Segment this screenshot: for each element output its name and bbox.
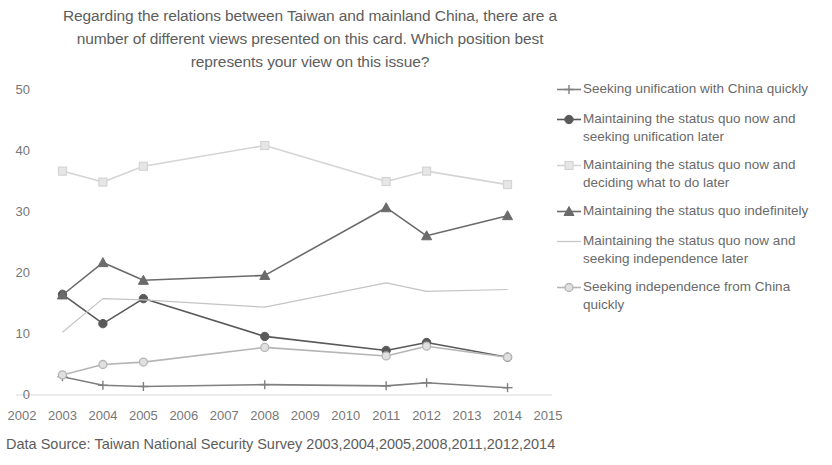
line-marker [556, 232, 582, 251]
data-point-marker [139, 358, 147, 366]
y-tick-label: 40 [0, 143, 30, 158]
y-tick-label: 10 [0, 326, 30, 341]
data-point-marker [139, 294, 147, 302]
data-point-marker [98, 258, 108, 267]
data-point-marker [382, 352, 390, 360]
series-line [58, 342, 511, 379]
data-point-marker [261, 343, 269, 351]
data-point-marker [58, 167, 66, 175]
x-tick-label: 2011 [366, 408, 406, 423]
x-tick-label: 2012 [407, 408, 447, 423]
series-line [57, 203, 512, 299]
circle-filled-marker [556, 110, 582, 129]
legend-item[interactable]: Maintaining the status quo now and seeki… [556, 232, 832, 267]
data-point-marker [99, 361, 107, 369]
data-point-marker [58, 371, 66, 379]
data-point-marker [565, 115, 573, 123]
legend-label: Maintaining the status quo now and seeki… [583, 232, 828, 267]
data-point-marker [504, 181, 512, 189]
data-point-marker [381, 203, 391, 212]
y-tick-label: 30 [0, 204, 30, 219]
x-tick-label: 2010 [326, 408, 366, 423]
circle-light-marker [556, 278, 582, 297]
series-path [63, 377, 508, 388]
y-tick-label: 20 [0, 265, 30, 280]
x-tick-label: 2007 [204, 408, 244, 423]
data-point-marker [261, 142, 269, 150]
series-path [63, 346, 508, 375]
data-point-marker [139, 162, 147, 170]
legend-label: Seeking unification with China quickly [583, 80, 808, 98]
square-marker [556, 156, 582, 175]
data-point-marker [565, 284, 573, 292]
legend-item[interactable]: Maintaining the status quo indefinitely [556, 202, 832, 221]
plot-area [0, 82, 560, 412]
chart-title-line-2: number of different views presented on t… [40, 27, 580, 50]
x-tick-label: 2006 [164, 408, 204, 423]
data-point-marker [99, 319, 107, 327]
data-point-marker [382, 178, 390, 186]
series-path [63, 208, 508, 295]
series-line [57, 372, 512, 392]
data-point-marker [565, 162, 573, 170]
series-line [58, 290, 511, 361]
y-tick-label: 0 [0, 387, 30, 402]
triangle-marker [556, 202, 582, 221]
x-tick-label: 2009 [285, 408, 325, 423]
data-source-footnote: Data Source: Taiwan National Security Su… [6, 436, 555, 452]
series-path [63, 146, 508, 185]
x-tick-label: 2014 [488, 408, 528, 423]
legend-label: Maintaining the status quo now and seeki… [583, 110, 828, 145]
chart-title: Regarding the relations between Taiwan a… [40, 4, 580, 73]
y-tick-label: 50 [0, 82, 30, 97]
x-tick-label: 2013 [447, 408, 487, 423]
x-tick-label: 2002 [2, 408, 42, 423]
legend-label: Maintaining the status quo now and decid… [583, 156, 828, 191]
legend-label: Seeking independence from China quickly [583, 278, 828, 313]
data-point-marker [99, 178, 107, 186]
legend-item[interactable]: Seeking independence from China quickly [556, 278, 832, 313]
series-line [58, 142, 511, 189]
legend-label: Maintaining the status quo indefinitely [583, 202, 808, 220]
x-tick-label: 2008 [245, 408, 285, 423]
legend-item[interactable]: Maintaining the status quo now and decid… [556, 156, 832, 191]
x-tick-label: 2003 [42, 408, 82, 423]
x-tick-label: 2005 [123, 408, 163, 423]
data-point-marker [261, 332, 269, 340]
data-point-marker [504, 353, 512, 361]
x-tick-label: 2015 [528, 408, 568, 423]
chart-legend: Seeking unification with China quicklyMa… [556, 80, 832, 324]
chart-figure: Regarding the relations between Taiwan a… [0, 0, 832, 465]
data-point-marker [503, 211, 513, 220]
legend-item[interactable]: Maintaining the status quo now and seeki… [556, 110, 832, 145]
plus-marker [556, 80, 582, 99]
data-point-marker [423, 167, 431, 175]
x-tick-label: 2004 [83, 408, 123, 423]
chart-title-line-3: represents your view on this issue? [40, 50, 580, 73]
legend-item[interactable]: Seeking unification with China quickly [556, 80, 832, 99]
data-point-marker [423, 342, 431, 350]
plot-svg [0, 82, 560, 412]
chart-title-line-1: Regarding the relations between Taiwan a… [40, 4, 580, 27]
